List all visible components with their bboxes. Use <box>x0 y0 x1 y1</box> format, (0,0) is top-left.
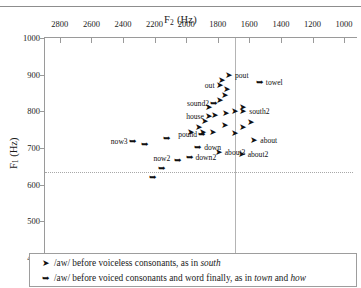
marker-arrow-open-icon: ➥ <box>38 273 54 283</box>
marker-arrow-filled-icon: ➤ <box>201 117 209 125</box>
marker-arrow-filled-icon: ➤ <box>222 109 230 117</box>
marker-arrow-filled-icon: ➤ <box>247 118 255 126</box>
marker-arrow-filled-icon: ➤ <box>225 71 233 79</box>
data-point-label-about: about <box>260 135 277 144</box>
x-tick-label-2800: 2800 <box>51 19 68 29</box>
x-tick-label-1200: 1200 <box>304 19 321 29</box>
x-tick-label-2600: 2600 <box>83 19 100 29</box>
marker-arrow-open-icon: ➥ <box>186 153 194 161</box>
marker-arrow-filled-icon: ➤ <box>199 128 207 136</box>
marker-arrow-open-icon: ➥ <box>141 140 149 148</box>
marker-arrow-open-icon: ➥ <box>163 134 171 142</box>
x-tick-label-1800: 1800 <box>209 19 226 29</box>
x-tick-label-2200: 2200 <box>146 19 163 29</box>
x-tick-label-1400: 1400 <box>272 19 289 29</box>
marker-arrow-filled-icon: ➤ <box>223 85 231 93</box>
legend: ➤ /aw/ before voiceless consonants, as i… <box>29 253 357 287</box>
x-tick-label-2400: 2400 <box>114 19 131 29</box>
y-axis-title: F1 (Hz) <box>8 118 21 188</box>
marker-arrow-filled-icon: ➤ <box>218 76 226 84</box>
marker-arrow-filled-icon: ➤ <box>238 150 246 158</box>
marker-arrow-filled-icon: ➤ <box>221 121 229 129</box>
legend-item-voiced: ➥ /aw/ before voiced consonants and word… <box>38 270 352 286</box>
marker-arrow-filled-icon: ➤ <box>38 258 54 268</box>
y-tick-label-900: 900 <box>14 70 40 80</box>
data-point-label-down2: down2 <box>196 152 217 161</box>
cut-off-text-remnant <box>0 0 361 5</box>
formant-scatter-figure: F2 (Hz) F1 (Hz) 280026002400220020001800… <box>0 7 361 288</box>
x-tick-label-1000: 1000 <box>336 19 353 29</box>
marker-arrow-open-icon: ➥ <box>174 156 182 164</box>
legend-item-voiceless-label: /aw/ before voiceless consonants, as in … <box>54 258 221 268</box>
marker-arrow-filled-icon: ➤ <box>187 128 195 136</box>
marker-arrow-open-icon: ➥ <box>256 78 264 86</box>
y-tick-label-1000: 1000 <box>14 33 40 43</box>
data-point-label-now2: now2 <box>153 154 170 163</box>
marker-arrow-filled-icon: ➤ <box>205 103 213 111</box>
plot-area: ➥now2➥down2➥down➥now3➤about3➤about2➥poun… <box>44 38 352 258</box>
data-point-label-pout: pout <box>235 71 249 80</box>
y-axis-title-main: F <box>8 163 19 169</box>
x-tick-label-2000: 2000 <box>178 19 195 29</box>
marker-arrow-filled-icon: ➤ <box>231 129 239 137</box>
horizontal-reference-line <box>45 172 353 173</box>
y-tick-label-700: 700 <box>14 143 40 153</box>
marker-arrow-filled-icon: ➤ <box>250 136 258 144</box>
marker-arrow-filled-icon: ➤ <box>209 128 217 136</box>
legend-item-voiced-label: /aw/ before voiced consonants and word f… <box>54 273 306 283</box>
marker-arrow-open-icon: ➥ <box>158 164 166 172</box>
y-tick-label-500: 500 <box>14 216 40 226</box>
marker-arrow-filled-icon: ➤ <box>239 103 247 111</box>
data-point-label-about2: about2 <box>248 149 269 158</box>
data-point-label-towel: towel <box>266 78 283 87</box>
marker-arrow-filled-icon: ➤ <box>211 111 219 119</box>
x-tick-label-1600: 1600 <box>241 19 258 29</box>
marker-arrow-filled-icon: ➤ <box>231 107 239 115</box>
marker-arrow-open-icon: ➥ <box>149 173 157 181</box>
marker-arrow-filled-icon: ➤ <box>215 148 223 156</box>
data-point-label-now3: now3 <box>111 137 128 146</box>
marker-arrow-filled-icon: ➤ <box>239 123 247 131</box>
data-point-label-south2: south2 <box>249 107 269 116</box>
data-point-label-out: out <box>205 81 215 90</box>
y-tick-label-600: 600 <box>14 180 40 190</box>
marker-arrow-open-icon: ➥ <box>194 143 202 151</box>
legend-item-voiceless: ➤ /aw/ before voiceless consonants, as i… <box>38 255 352 271</box>
y-axis-title-subscript: 1 <box>11 159 20 163</box>
marker-arrow-open-icon: ➥ <box>129 137 137 145</box>
y-tick-label-800: 800 <box>14 106 40 116</box>
